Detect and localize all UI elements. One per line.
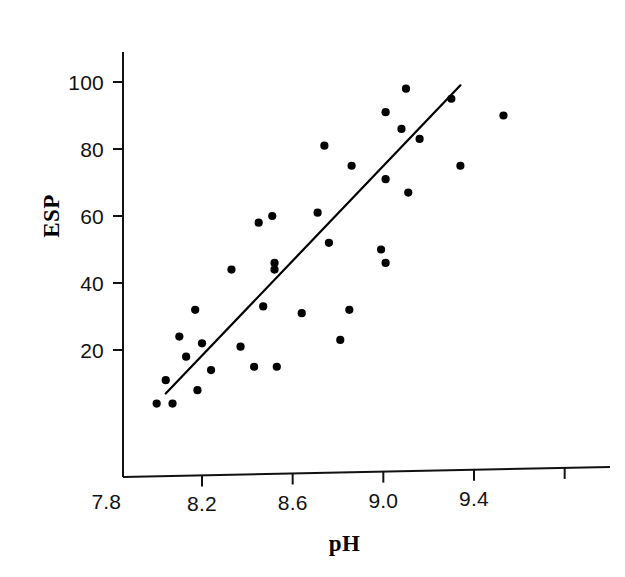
scatter-point	[320, 142, 328, 150]
scatter-point	[314, 209, 322, 217]
y-tick-label: 80	[80, 139, 104, 160]
scatter-point	[402, 85, 410, 93]
scatter-point	[255, 219, 263, 227]
scatter-point	[168, 400, 176, 408]
scatter-point	[499, 111, 507, 119]
x-tick-label: 9.0	[368, 490, 398, 511]
scatter-point	[382, 175, 390, 183]
regression-line	[166, 85, 461, 393]
scatter-point	[456, 162, 464, 170]
y-axis-ticks	[113, 82, 123, 350]
scatter-point	[259, 302, 267, 310]
scatter-point	[273, 363, 281, 371]
fit-line	[166, 85, 461, 393]
y-tick-label: 20	[80, 340, 104, 361]
scatter-point	[325, 239, 333, 247]
data-points	[153, 85, 508, 408]
scatter-point	[404, 188, 412, 196]
scatter-point	[382, 259, 390, 267]
scatter-point	[416, 135, 424, 143]
scatter-point	[345, 306, 353, 314]
scatter-point	[207, 366, 215, 374]
scatter-point	[198, 339, 206, 347]
y-tick-label: 60	[80, 206, 104, 227]
scatter-point	[377, 245, 385, 253]
y-tick-label: 40	[80, 273, 104, 294]
x-axis-title: pH	[329, 532, 361, 555]
scatter-point	[236, 343, 244, 351]
scatter-point	[162, 376, 170, 384]
scatter-plot-figure: 20406080100 7.88.28.69.09.4 ESP pH	[0, 0, 625, 577]
x-axis-line	[123, 467, 610, 477]
y-tick-label: 100	[68, 72, 104, 93]
y-axis-title: ESP	[40, 194, 63, 238]
scatter-point	[447, 95, 455, 103]
scatter-point	[193, 386, 201, 394]
x-tick-label: 9.4	[459, 488, 489, 509]
x-tick-label: 8.6	[278, 492, 308, 513]
scatter-point	[153, 400, 161, 408]
scatter-point	[397, 125, 405, 133]
scatter-point	[382, 108, 390, 116]
scatter-point	[250, 363, 258, 371]
scatter-point	[191, 306, 199, 314]
scatter-point	[298, 309, 306, 317]
scatter-point	[270, 266, 278, 274]
scatter-point	[227, 266, 235, 274]
scatter-point	[348, 162, 356, 170]
scatter-point	[268, 212, 276, 220]
axis-spines	[123, 52, 610, 477]
scatter-point	[182, 353, 190, 361]
x-tick-label: 7.8	[91, 491, 121, 512]
scatter-point	[175, 333, 183, 341]
scatter-point	[336, 336, 344, 344]
x-tick-label: 8.2	[187, 493, 217, 514]
